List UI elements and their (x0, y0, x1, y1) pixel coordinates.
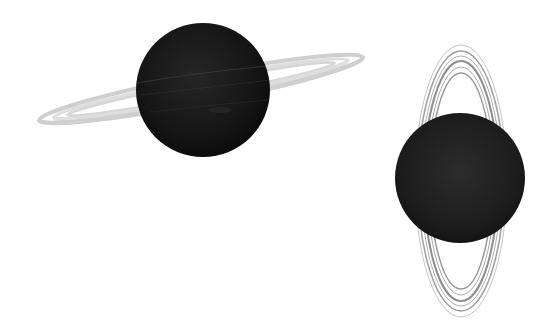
planets-scene (0, 0, 558, 335)
planet-2 (395, 113, 525, 243)
planet-1 (136, 23, 270, 157)
